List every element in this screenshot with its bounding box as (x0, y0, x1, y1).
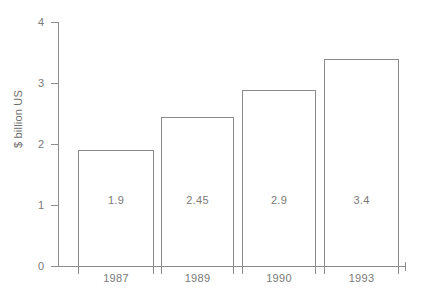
bar-value-1987: 1.9 (78, 194, 154, 206)
bar-1993 (324, 59, 399, 267)
bar-value-1989: 2.45 (161, 194, 234, 206)
bar-value-1993: 3.4 (324, 194, 399, 206)
bar-chart: $ billion US 0 1 2 3 4 1.9 2.45 2.9 3.4 … (0, 0, 426, 305)
y-tick-label-2: 2 (18, 139, 44, 150)
y-tick-1 (51, 205, 59, 206)
y-tick-label-4: 4 (18, 17, 44, 28)
y-tick-3 (51, 83, 59, 84)
clipped-title-remnant (0, 0, 426, 3)
bar-1989 (161, 117, 234, 267)
clipped-caption-remnant (4, 301, 304, 305)
bar-1990 (242, 90, 316, 267)
x-tick-label-1990: 1990 (242, 272, 316, 285)
x-tick-label-1987: 1987 (78, 272, 154, 285)
y-tick-label-0: 0 (18, 261, 44, 272)
y-tick-2 (51, 144, 59, 145)
x-tick-label-1989: 1989 (161, 272, 234, 285)
bar-value-1990: 2.9 (242, 194, 316, 206)
y-tick-4 (51, 22, 59, 23)
x-axis-end-tick (405, 262, 406, 271)
y-tick-label-3: 3 (18, 78, 44, 89)
x-tick-label-1993: 1993 (324, 272, 399, 285)
y-tick-0 (51, 266, 59, 267)
bar-1987 (78, 150, 154, 267)
y-tick-label-1: 1 (18, 200, 44, 211)
